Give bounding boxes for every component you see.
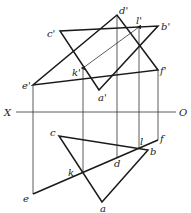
intersection-line-kl-front (83, 27, 139, 68)
label-e-top: e (23, 193, 29, 204)
axis-label-x: X (3, 107, 12, 118)
label-d-top: d (114, 158, 120, 169)
label-d-front: d' (119, 5, 128, 16)
label-e-front: e' (22, 80, 31, 91)
projection-diagram: X O d' l' b' c' k' f' e' a' c l f b d k … (0, 0, 191, 213)
axis-label-o: O (179, 107, 187, 118)
label-c-top: c (50, 127, 56, 138)
label-c-front: c' (47, 28, 55, 39)
label-a-front: a' (98, 92, 107, 103)
label-f-top: f (159, 133, 166, 144)
label-a-top: a (100, 203, 106, 213)
label-k-top: k (68, 167, 74, 178)
label-f-front: f' (159, 65, 166, 76)
label-l-top: l (140, 136, 143, 147)
label-b-top: b (150, 146, 156, 157)
label-k-front: k' (72, 67, 81, 78)
line-ef-top (33, 140, 158, 194)
label-l-front: l' (136, 15, 142, 26)
label-b-front: b' (161, 21, 170, 32)
